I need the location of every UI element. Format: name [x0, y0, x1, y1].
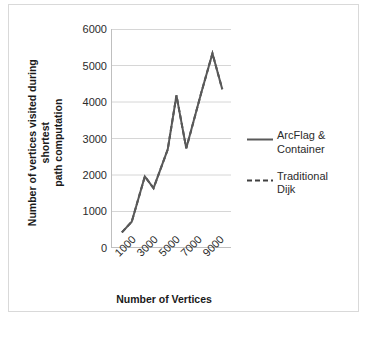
legend-swatch-solid-icon: [247, 131, 273, 142]
x-axis-title: Number of Vertices: [49, 293, 279, 306]
y-axis-tick-2000: 2000: [65, 170, 107, 181]
legend-label-line2: Container: [277, 143, 325, 155]
legend-swatch-dashed-icon: [247, 172, 273, 183]
y-axis-title: Number of vertices visited during shorte…: [26, 38, 65, 248]
y-axis-tick-labels: 6000 5000 4000 3000 2000 1000 0: [61, 29, 107, 248]
y-axis-tick-5000: 5000: [65, 60, 107, 71]
plot-area: [111, 29, 231, 248]
chart-legend: ArcFlag & Container Traditional Dijk: [247, 129, 353, 210]
legend-item-arcflag-container: ArcFlag & Container: [247, 129, 353, 157]
plot-svg: [111, 29, 231, 248]
chart-frame: 6000 5000 4000 3000 2000 1000 0: [8, 4, 359, 312]
series-line-arcflag-container: [122, 53, 222, 232]
legend-label-arcflag-container: ArcFlag & Container: [277, 129, 325, 157]
legend-label-line2: Dijk: [277, 183, 295, 195]
x-axis-tick-labels: 1000 3000 5000 7000 9000: [111, 251, 241, 291]
legend-label-line1: ArcFlag &: [277, 129, 325, 141]
legend-item-traditional-dijk: Traditional Dijk: [247, 170, 353, 198]
y-axis-tick-6000: 6000: [65, 24, 107, 35]
y-axis-tick-1000: 1000: [65, 206, 107, 217]
legend-label-line1: Traditional: [277, 170, 328, 182]
y-axis-tick-3000: 3000: [65, 133, 107, 144]
y-axis-tick-0: 0: [65, 243, 107, 254]
y-axis-title-line1: Number of vertices visited during shorte…: [26, 38, 52, 248]
legend-label-traditional-dijk: Traditional Dijk: [277, 170, 328, 198]
y-axis-tick-4000: 4000: [65, 96, 107, 107]
y-axis-title-line2: path computation: [53, 38, 66, 248]
